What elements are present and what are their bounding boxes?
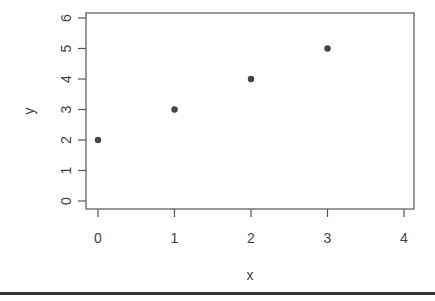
x-tick-label: 1 — [171, 230, 179, 246]
data-point — [95, 137, 101, 143]
x-axis: 01234 — [94, 209, 408, 246]
y-tick-label: 5 — [58, 44, 74, 52]
y-tick-label: 4 — [58, 75, 74, 83]
y-tick-label: 1 — [58, 166, 74, 174]
y-tick-label: 3 — [58, 105, 74, 113]
y-tick-label: 6 — [58, 14, 74, 22]
data-point — [248, 76, 254, 82]
x-tick-label: 0 — [94, 230, 102, 246]
bottom-divider — [0, 292, 435, 295]
scatter-plot: 0123456 01234 x y — [0, 0, 435, 301]
x-tick-label: 3 — [324, 230, 332, 246]
data-points — [95, 45, 331, 143]
x-tick-label: 2 — [247, 230, 255, 246]
plot-area-frame — [86, 13, 414, 209]
y-axis: 0123456 — [58, 14, 86, 205]
y-tick-label: 2 — [58, 136, 74, 144]
data-point — [324, 45, 330, 51]
x-axis-label: x — [247, 267, 254, 283]
y-tick-label: 0 — [58, 197, 74, 205]
x-tick-label: 4 — [400, 230, 408, 246]
y-axis-label: y — [21, 108, 37, 115]
data-point — [171, 106, 177, 112]
